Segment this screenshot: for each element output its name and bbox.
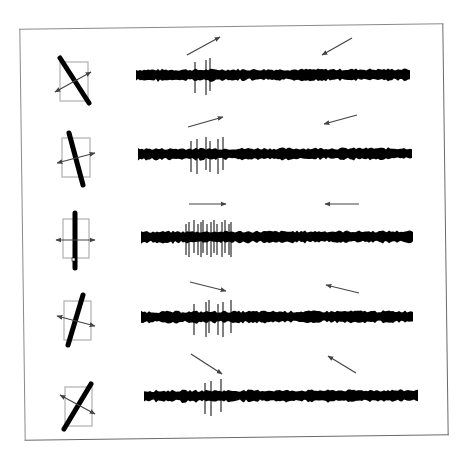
response-row [57, 282, 413, 345]
spike-trace [138, 147, 412, 160]
spike-trace [141, 310, 413, 323]
reverse-direction-arrow-icon [328, 356, 356, 373]
orientation-tuning-figure [0, 0, 460, 468]
spike-trace [141, 230, 413, 244]
forward-direction-arrow-icon [187, 37, 220, 55]
forward-direction-arrow-icon [191, 354, 222, 374]
response-row [56, 204, 413, 268]
fixation-point-icon [72, 258, 75, 261]
reverse-direction-arrow-icon [324, 115, 357, 124]
response-row [55, 37, 410, 103]
forward-direction-arrow-icon [190, 282, 226, 291]
spike-trace [144, 389, 418, 403]
response-row [57, 115, 412, 185]
reverse-direction-arrow-icon [326, 285, 359, 293]
spike-trace [136, 68, 410, 82]
stimulus-bar-icon [64, 384, 91, 429]
reverse-direction-arrow-icon [322, 38, 352, 55]
response-row [60, 354, 418, 429]
forward-direction-arrow-icon [188, 117, 223, 127]
